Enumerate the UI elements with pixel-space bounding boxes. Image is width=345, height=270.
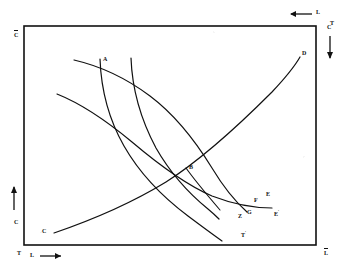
curve-label-b: B [189,164,193,170]
corner-label-bottom-left: T [17,250,21,256]
curve-label-z: Z [238,213,242,219]
curve-label-g: G [247,209,252,215]
curve-label-d: D [302,50,306,56]
curve-label-a: A [103,56,107,62]
curve-steep-left [100,59,222,241]
axis-label-right: C [327,24,331,30]
curve-a [74,60,247,212]
overbar [324,248,328,249]
overbar [14,30,18,31]
curve-lower-isoquant [57,94,272,208]
corner-label-bottom-right: L [324,250,328,256]
axis-label-bottom-left: L [30,252,34,258]
axis-arrow-left-up [11,186,17,210]
axis-arrow-right-down [327,36,333,59]
curve-label-e: E [266,191,270,197]
prime-mark: ′ [245,230,246,235]
curve-label-f: F [254,197,258,203]
curve-label-t-prime: T′ [241,231,246,238]
axis-arrow-top-right [290,11,312,17]
figure-canvas [0,0,345,270]
prime-mark: ′ [278,209,279,214]
curve-label-c: C [42,228,46,234]
curve-branch-z [186,168,220,210]
axis-label-top-right: L [316,9,320,15]
corner-label-top-left: C [14,32,18,38]
plot-frame [24,26,316,245]
axis-arrow-bottom-left [40,253,61,259]
curve-label-e-prime: E′ [274,210,279,217]
axis-label-left: C [14,219,18,225]
